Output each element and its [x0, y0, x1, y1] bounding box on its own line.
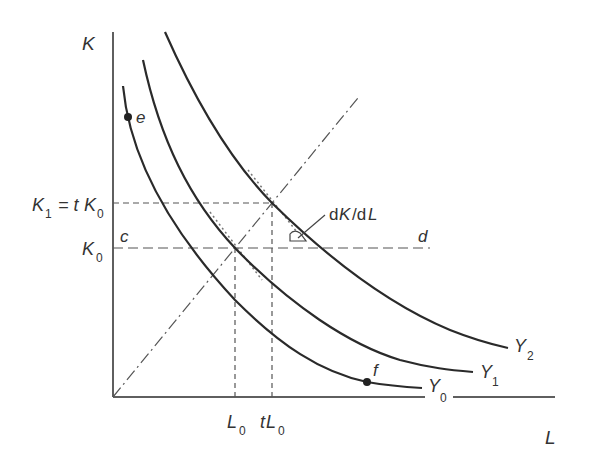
svg-text:Y: Y — [514, 336, 528, 356]
svg-text:0: 0 — [96, 251, 103, 265]
isoquant-y2 — [165, 32, 508, 348]
point-f-label: f — [373, 361, 380, 380]
isoquant-y1 — [143, 60, 473, 372]
k0-label: K 0 — [82, 239, 103, 265]
tl0-label: t L 0 — [260, 412, 285, 438]
svg-text:K: K — [32, 195, 45, 215]
point-f — [363, 378, 371, 386]
slope-pointer — [298, 215, 325, 238]
y-axis-label: K — [82, 33, 96, 54]
point-e-label: e — [136, 108, 145, 127]
y1-label: Y 1 — [480, 362, 499, 389]
svg-text:1: 1 — [492, 375, 499, 389]
point-e — [124, 113, 132, 121]
svg-text:0: 0 — [278, 424, 285, 438]
svg-text:1: 1 — [45, 207, 52, 221]
svg-text:K: K — [84, 195, 97, 215]
svg-text:= t: = t — [53, 195, 80, 215]
svg-text:L: L — [227, 412, 237, 432]
svg-text:K: K — [339, 205, 351, 224]
svg-text:0: 0 — [440, 391, 447, 405]
svg-text:2: 2 — [527, 349, 534, 363]
svg-text:d: d — [329, 205, 338, 224]
x-axis-label: L — [545, 427, 556, 448]
isoquant-diagram: K L K 1 = t K 0 K 0 c d e f d K /d L L 0… — [0, 0, 590, 462]
svg-text:K: K — [82, 239, 95, 259]
point-d-label: d — [418, 227, 428, 246]
y0-label: Y 0 — [425, 376, 453, 405]
k1-label: K 1 = t K 0 — [32, 195, 104, 221]
l0-label: L 0 — [227, 412, 246, 438]
point-c-label: c — [120, 227, 129, 246]
svg-text:L: L — [368, 205, 377, 224]
svg-text:/d: /d — [352, 205, 366, 224]
svg-text:L: L — [266, 412, 276, 432]
y2-label: Y 2 — [514, 336, 534, 363]
slope-label: d K /d L — [329, 205, 377, 224]
svg-text:0: 0 — [239, 424, 246, 438]
svg-text:0: 0 — [97, 207, 104, 221]
